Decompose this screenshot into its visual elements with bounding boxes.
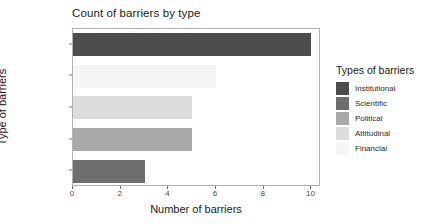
legend-swatch [336, 82, 349, 95]
legend-item-political[interactable]: Political [336, 111, 432, 126]
bar-institutional[interactable] [73, 33, 311, 56]
y-axis-title: Type of barriers [0, 69, 8, 145]
x-tick-mark [120, 186, 121, 189]
bar-row [73, 124, 321, 156]
legend-label: Attitudinal [355, 129, 390, 138]
legend-label: Financial [355, 144, 387, 153]
x-tick-label: 0 [70, 189, 74, 198]
bar-row [73, 155, 321, 187]
legend-label: Institutional [355, 84, 395, 93]
legend-item-financial[interactable]: Financial [336, 141, 432, 156]
legend: Types of barriers InstitutionalScientifi… [336, 64, 432, 156]
legend-swatch [336, 142, 349, 155]
bar-row [73, 61, 321, 93]
bar-political[interactable] [73, 128, 192, 151]
plot-area [73, 29, 319, 185]
legend-items: InstitutionalScientificPoliticalAttitudi… [336, 81, 432, 156]
x-axis-title: Number of barriers [150, 203, 242, 215]
x-tick-label: 10 [306, 189, 315, 198]
legend-label: Political [355, 114, 383, 123]
x-tick-mark [167, 186, 168, 189]
bar-attitudinal[interactable] [73, 96, 192, 119]
x-tick-label: 2 [117, 189, 121, 198]
bar-financial[interactable] [73, 65, 216, 88]
x-tick-mark [215, 186, 216, 189]
x-tick-mark [72, 186, 73, 189]
legend-item-institutional[interactable]: Institutional [336, 81, 432, 96]
legend-swatch [336, 112, 349, 125]
bar-row [73, 29, 321, 61]
legend-swatch [336, 127, 349, 140]
bar-scientific[interactable] [73, 160, 145, 183]
bar-chart: Count of barriers by type InstitutionalF… [0, 0, 434, 224]
legend-label: Scientific [355, 99, 387, 108]
x-tick-mark [263, 186, 264, 189]
x-tick-mark [310, 186, 311, 189]
x-tick-label: 6 [213, 189, 217, 198]
legend-swatch [336, 97, 349, 110]
bar-row [73, 92, 321, 124]
x-tick-label: 8 [261, 189, 265, 198]
x-tick-label: 4 [165, 189, 169, 198]
legend-title: Types of barriers [336, 64, 432, 76]
legend-item-scientific[interactable]: Scientific [336, 96, 432, 111]
chart-title: Count of barriers by type [72, 7, 200, 19]
legend-item-attitudinal[interactable]: Attitudinal [336, 126, 432, 141]
plot-panel [72, 28, 320, 186]
